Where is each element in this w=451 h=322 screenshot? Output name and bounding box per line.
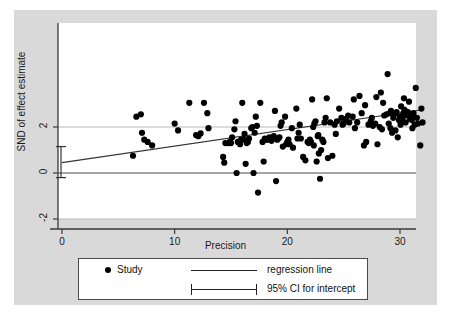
data-point xyxy=(312,118,318,124)
data-point xyxy=(418,106,424,112)
data-point xyxy=(363,139,369,145)
y-tick-label: -2 xyxy=(38,207,49,229)
data-point xyxy=(314,158,320,164)
data-point xyxy=(380,100,386,106)
data-point xyxy=(252,130,258,136)
data-point xyxy=(329,153,335,159)
data-point xyxy=(220,154,226,160)
data-point xyxy=(283,141,289,147)
data-point xyxy=(290,145,296,151)
data-point xyxy=(263,137,269,143)
data-point xyxy=(385,71,391,77)
data-point xyxy=(401,95,407,101)
data-point xyxy=(253,114,259,120)
regression-line-swatch-icon xyxy=(191,270,257,271)
data-point xyxy=(378,89,384,95)
data-point xyxy=(333,131,339,137)
data-point xyxy=(276,134,282,140)
data-point xyxy=(317,176,323,182)
data-point xyxy=(279,119,285,125)
data-point xyxy=(413,85,419,91)
data-point xyxy=(130,153,136,159)
data-point xyxy=(186,100,192,106)
data-point xyxy=(339,122,345,128)
data-point xyxy=(406,99,412,105)
x-tick-label: 30 xyxy=(385,236,415,247)
ci-line-swatch-icon xyxy=(191,289,257,290)
chart-legend: Study regression line 95% CI for interce… xyxy=(78,258,368,300)
data-point xyxy=(293,106,299,112)
data-point xyxy=(227,139,233,145)
data-point xyxy=(417,142,423,148)
legend-label-study: Study xyxy=(117,264,143,275)
data-point xyxy=(409,117,415,123)
data-point xyxy=(261,158,267,164)
x-tick-label: 20 xyxy=(272,236,302,247)
data-point xyxy=(289,125,295,131)
data-point xyxy=(172,120,178,126)
data-point xyxy=(197,130,203,136)
data-point xyxy=(419,119,425,125)
data-point xyxy=(336,106,342,112)
study-marker-icon xyxy=(105,267,111,273)
figure-container: SND of effect estimate Precision Study r… xyxy=(0,0,451,322)
data-point xyxy=(273,178,279,184)
data-point xyxy=(387,125,393,131)
data-point xyxy=(324,95,330,101)
ci-cap-left-icon xyxy=(191,284,192,295)
data-point xyxy=(315,132,321,138)
data-point xyxy=(175,127,181,133)
data-point xyxy=(244,140,250,146)
data-point xyxy=(356,93,362,99)
data-point xyxy=(309,96,315,102)
data-point xyxy=(351,96,357,102)
data-point xyxy=(354,119,360,125)
data-point xyxy=(201,100,207,106)
data-point xyxy=(362,102,368,108)
legend-label-ci: 95% CI for intercept xyxy=(267,283,355,294)
y-tick-label: 0 xyxy=(38,161,49,183)
data-point xyxy=(231,126,237,132)
data-point xyxy=(282,114,288,120)
data-point xyxy=(255,189,261,195)
data-point xyxy=(138,111,144,117)
ci-cap-right-icon xyxy=(256,284,257,295)
data-point xyxy=(352,125,358,131)
data-point xyxy=(254,123,260,129)
data-point xyxy=(241,131,247,137)
data-point xyxy=(297,122,303,128)
data-point xyxy=(395,134,401,140)
data-point xyxy=(243,161,249,167)
data-point xyxy=(302,157,308,163)
data-point xyxy=(239,100,245,106)
data-point xyxy=(234,170,240,176)
data-point xyxy=(149,142,155,148)
data-point xyxy=(250,170,256,176)
data-point xyxy=(374,141,380,147)
data-point xyxy=(359,110,365,116)
data-point xyxy=(350,114,356,120)
data-point xyxy=(257,100,263,106)
legend-label-regression: regression line xyxy=(267,264,332,275)
y-axis-title: SND of effect estimate xyxy=(16,37,27,167)
data-point xyxy=(296,130,302,136)
data-point xyxy=(272,108,278,114)
data-point xyxy=(306,140,312,146)
data-point xyxy=(139,130,145,136)
legend-row-study: Study regression line xyxy=(79,260,369,280)
x-tick-label: 10 xyxy=(160,236,190,247)
data-point xyxy=(204,110,210,116)
y-tick-label: 2 xyxy=(38,115,49,137)
data-point xyxy=(321,119,327,125)
data-point xyxy=(379,126,385,132)
x-tick-label: 0 xyxy=(47,236,77,247)
legend-row-ci: 95% CI for intercept xyxy=(79,279,369,299)
data-point xyxy=(373,94,379,100)
data-point xyxy=(221,160,227,166)
data-point xyxy=(205,125,211,131)
data-point xyxy=(346,119,352,125)
data-point xyxy=(238,137,244,143)
data-point xyxy=(397,122,403,128)
data-point xyxy=(318,147,324,153)
data-point xyxy=(232,118,238,124)
